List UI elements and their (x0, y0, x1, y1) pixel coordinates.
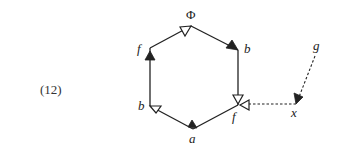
equation-number: (12) (40, 82, 62, 97)
vertex-label-upper-right: b (244, 41, 251, 56)
vertex-label-lower-left: b (138, 98, 145, 113)
vertex-label-x: x (290, 105, 297, 120)
hollow-arrow-icon (233, 95, 243, 104)
vertex-label-g: g (313, 38, 320, 53)
vertex-label-bottom: a (189, 131, 196, 146)
edge-g-x (299, 56, 315, 97)
hexagon-edges (150, 26, 238, 129)
filled-arrow-icon (145, 51, 155, 60)
vertex-label-lower-right: f (232, 109, 238, 124)
vertex-label-upper-left: f (137, 41, 143, 56)
filled-arrow-icon (226, 40, 238, 50)
filled-arrow-icon (188, 120, 197, 128)
filled-arrow-icon (294, 93, 303, 104)
hollow-arrow-icon (240, 100, 249, 110)
vertex-label-phi: Φ (186, 7, 196, 22)
dashed-edges (248, 56, 315, 104)
hollow-arrow-icon (180, 26, 191, 36)
hollow-arrow-icon (150, 106, 161, 113)
hexagon-diagram: (12) Φ b f a b f x g (0, 0, 341, 152)
